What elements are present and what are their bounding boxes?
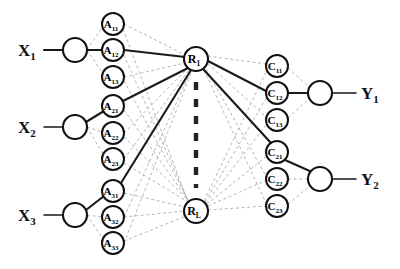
network-diagram: A11 A12 A13 A21 bbox=[0, 0, 400, 269]
edge-r1-c23 bbox=[204, 70, 266, 203]
output-node-y1[interactable] bbox=[308, 81, 332, 105]
consequent-node-c22[interactable]: C22 bbox=[266, 168, 288, 190]
edge-x2-a23 bbox=[87, 127, 103, 154]
membership-node-group: A11 A12 A13 A21 bbox=[102, 13, 124, 254]
edge-r1-c21-solid bbox=[204, 70, 271, 143]
edge-r1-c13 bbox=[208, 64, 266, 117]
edge-x3-a32 bbox=[87, 215, 102, 217]
output-node-y2[interactable] bbox=[308, 167, 332, 191]
edge-rl-c12 bbox=[205, 97, 267, 202]
edge-x1-a13 bbox=[87, 50, 103, 74]
input-node-x3[interactable] bbox=[63, 203, 87, 227]
consequent-node-c21[interactable]: C21 bbox=[266, 141, 288, 163]
membership-node-a32[interactable]: A32 bbox=[102, 206, 124, 228]
edge-a31-r1-solid bbox=[121, 70, 191, 183]
rule-node-rl[interactable]: RL bbox=[184, 199, 208, 223]
output-label-y1: Y1 bbox=[361, 84, 379, 105]
input-label-x3: X3 bbox=[18, 206, 36, 227]
edge-c21-y2-solid bbox=[285, 160, 312, 172]
input-label-x2: X2 bbox=[18, 118, 36, 139]
edge-x3-a31-solid bbox=[86, 196, 104, 210]
edge-rl-c22 bbox=[208, 180, 267, 206]
input-node-x1[interactable] bbox=[63, 38, 87, 62]
consequent-node-group: C11 C12 C13 C21 bbox=[266, 55, 288, 217]
edge-x2-a22 bbox=[87, 127, 102, 132]
edge-r1-c11 bbox=[208, 56, 266, 64]
edge-x1-a11 bbox=[87, 26, 103, 50]
consequent-node-c13[interactable]: C13 bbox=[266, 109, 288, 131]
input-node-x2[interactable] bbox=[63, 115, 87, 139]
consequent-node-c12[interactable]: C12 bbox=[266, 82, 288, 104]
edge-c13-y1 bbox=[288, 98, 310, 118]
edge-r1-c22 bbox=[206, 69, 266, 176]
membership-node-a23[interactable]: A23 bbox=[102, 148, 124, 170]
network-svg: A11 A12 A13 A21 bbox=[0, 0, 400, 269]
edge-rl-c13 bbox=[206, 124, 267, 203]
edge-a23-rl bbox=[124, 163, 193, 205]
edge-a32-rl bbox=[124, 211, 185, 217]
input-label-x1: X1 bbox=[18, 41, 36, 62]
membership-node-a22[interactable]: A22 bbox=[102, 122, 124, 144]
membership-node-a31[interactable]: A31 bbox=[102, 180, 124, 202]
edge-a11-rl bbox=[123, 29, 188, 202]
edge-a31-rl bbox=[124, 193, 185, 207]
edge-x2-a21-solid bbox=[86, 111, 104, 122]
edge-r1-c12-solid bbox=[208, 61, 266, 91]
membership-node-a21[interactable]: A21 bbox=[102, 95, 124, 117]
membership-node-a33[interactable]: A33 bbox=[102, 232, 124, 254]
consequent-node-c11[interactable]: C11 bbox=[266, 55, 288, 77]
edge-a32-r1 bbox=[124, 71, 191, 217]
edge-rl-c23 bbox=[208, 206, 266, 210]
membership-node-a11[interactable]: A11 bbox=[102, 13, 124, 35]
solid-edge-group bbox=[44, 50, 356, 215]
output-label-y2: Y2 bbox=[361, 170, 379, 191]
output-node-group bbox=[308, 81, 332, 191]
consequent-node-c23[interactable]: C23 bbox=[266, 195, 288, 217]
input-node-group bbox=[63, 38, 87, 227]
edge-x3-a33 bbox=[87, 215, 103, 239]
edge-c23-y2 bbox=[288, 186, 310, 204]
rule-node-r1[interactable]: R1 bbox=[184, 47, 208, 71]
edge-a22-r1 bbox=[124, 69, 187, 133]
membership-node-a12[interactable]: A12 bbox=[102, 39, 124, 61]
membership-node-a13[interactable]: A13 bbox=[102, 66, 124, 88]
edge-c11-y1 bbox=[288, 68, 310, 88]
